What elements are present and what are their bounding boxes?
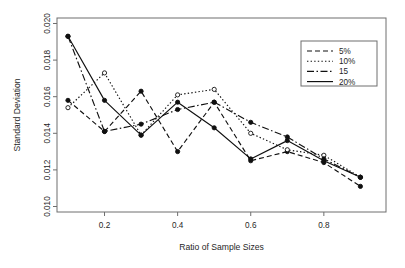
y-tick-label: 0.020	[43, 13, 52, 34]
chart-figure: 0.20.40.60.8 0.0100.0120.0140.0160.0180.…	[0, 0, 405, 268]
x-tick-label: 0.6	[245, 221, 257, 230]
y-tick-label: 0.016	[43, 86, 52, 107]
y-tick-label: 0.014	[43, 123, 52, 144]
data-point	[212, 87, 216, 91]
data-point	[285, 139, 289, 143]
legend-label-10pct: 10%	[339, 57, 355, 66]
y-tick-label: 0.010	[43, 196, 52, 217]
data-point	[139, 133, 143, 137]
x-tick-label: 0.4	[172, 221, 184, 230]
data-point	[176, 93, 180, 97]
legend-label-20pct: 20%	[339, 78, 355, 87]
line-chart: 0.20.40.60.8 0.0100.0120.0140.0160.0180.…	[0, 0, 405, 268]
y-tick-label: 0.018	[43, 49, 52, 70]
y-tick-label: 0.012	[43, 159, 52, 180]
data-point	[358, 184, 362, 188]
data-point	[249, 120, 253, 124]
x-axis-title: Ratio of Sample Sizes	[179, 242, 264, 252]
data-point	[249, 131, 253, 135]
data-point	[176, 150, 180, 154]
data-point	[139, 122, 143, 126]
x-axis-ticks	[105, 212, 324, 216]
legend-label-15: 15	[339, 67, 349, 76]
chart-legend: 5%10%1520%	[301, 41, 377, 87]
data-point	[102, 129, 106, 133]
x-tick-label: 0.2	[99, 221, 111, 230]
data-point	[102, 71, 106, 75]
legend-label-5pct: 5%	[339, 47, 351, 56]
data-point	[358, 175, 362, 179]
y-axis-ticks	[53, 23, 57, 206]
series-line-5pct	[68, 91, 360, 186]
x-axis-tick-labels: 0.20.40.60.8	[99, 221, 330, 230]
data-point	[66, 34, 70, 38]
data-point	[285, 148, 289, 152]
data-point	[66, 106, 70, 110]
data-point	[102, 98, 106, 102]
data-point	[66, 98, 70, 102]
data-point	[139, 89, 143, 93]
data-point	[249, 157, 253, 161]
data-point	[322, 159, 326, 163]
data-point	[176, 100, 180, 104]
x-tick-label: 0.8	[318, 221, 330, 230]
data-point	[176, 107, 180, 111]
data-point	[212, 126, 216, 130]
y-axis-title: Standard Deviation	[12, 78, 22, 151]
y-axis-tick-labels: 0.0100.0120.0140.0160.0180.020	[43, 13, 52, 217]
data-point	[212, 100, 216, 104]
